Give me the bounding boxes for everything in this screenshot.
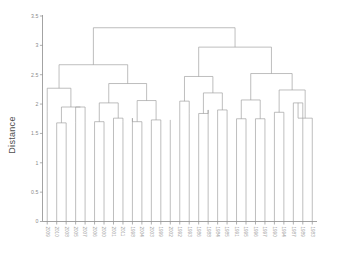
chart-background	[0, 0, 337, 256]
leaf-label: 1987	[291, 227, 296, 238]
leaf-label: 2001	[111, 227, 116, 238]
leaf-label: 1984	[215, 227, 220, 238]
leaf-label: 2007	[82, 227, 87, 238]
leaf-label: 1983	[310, 227, 315, 238]
leaf-label: 2010	[54, 227, 59, 238]
y-axis-title: Distance	[7, 116, 17, 153]
leaf-label: 1991	[234, 227, 239, 238]
leaf-label: 1992	[177, 227, 182, 238]
y-tick-label: 3	[35, 42, 38, 48]
y-tick-label: 2.5	[31, 72, 38, 78]
leaf-label: 1996	[253, 227, 258, 238]
leaf-label: 2008	[64, 227, 69, 238]
leaf-label: 1999	[158, 227, 163, 238]
leaf-label: 2002	[168, 227, 173, 238]
leaf-label: 2004	[139, 227, 144, 238]
leaf-label: 2003	[149, 227, 154, 238]
dendrogram-svg: 00.511.522.533.5 20092010200820052007200…	[0, 0, 337, 256]
y-tick-label: 1.5	[31, 130, 38, 136]
leaf-label: 2011	[120, 227, 125, 237]
leaf-label: 1998	[130, 227, 135, 238]
leaf-label: 2009	[45, 227, 50, 238]
y-tick-label: 0.5	[31, 189, 38, 195]
leaf-label: 1995	[243, 227, 248, 238]
leaf-label: 1994	[281, 227, 286, 238]
leaf-label: 1988	[206, 227, 211, 238]
leaf-label: 1986	[196, 227, 201, 238]
leaf-labels: 2009201020082005200720062000200120111998…	[45, 227, 315, 238]
leaf-label: 1985	[224, 227, 229, 238]
leaf-label: 1989	[300, 227, 305, 238]
leaf-label: 1997	[262, 227, 267, 238]
leaf-label: 2006	[92, 227, 97, 238]
y-tick-label: 1	[35, 160, 38, 166]
leaf-label: 1990	[272, 227, 277, 238]
dendrogram-figure: 00.511.522.533.5 20092010200820052007200…	[0, 0, 337, 256]
leaf-label: 2005	[73, 227, 78, 238]
y-tick-label: 2	[35, 101, 38, 107]
leaf-label: 2000	[101, 227, 106, 238]
y-tick-label: 3.5	[31, 13, 38, 19]
leaf-label: 1993	[187, 227, 192, 238]
y-tick-label: 0	[35, 218, 38, 224]
